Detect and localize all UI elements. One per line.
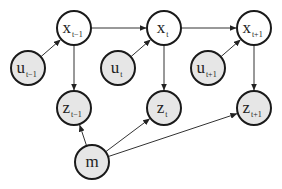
edge-u_t-to-x_t: [131, 40, 151, 57]
node-u_t: ut: [101, 51, 135, 85]
node-label-base: u: [111, 58, 120, 77]
node-label-base: u: [196, 58, 205, 77]
node-label-base: m: [85, 152, 98, 171]
edge-m-to-z_tm1: [80, 125, 87, 146]
node-label-base: z: [242, 98, 250, 117]
edge-u_tp1-to-x_tp1: [221, 40, 241, 57]
node-z_tp1: zt+1: [237, 91, 271, 125]
node-x_tm1: xt−1: [57, 11, 91, 45]
node-label: m: [85, 152, 98, 171]
node-label-subscript: t+1: [206, 70, 217, 79]
node-m: m: [75, 145, 109, 179]
node-label-base: z: [157, 98, 165, 117]
node-label-base: x: [157, 18, 166, 37]
node-label-base: z: [62, 98, 70, 117]
node-label-subscript: t−1: [26, 70, 37, 79]
edge-u_tm1-to-x_tm1: [41, 40, 61, 57]
node-z_t: zt: [147, 91, 181, 125]
node-label-base: x: [242, 18, 251, 37]
node-label-subscript: t−1: [71, 110, 82, 119]
node-x_t: xt: [147, 11, 181, 45]
node-x_tp1: xt+1: [237, 11, 271, 45]
nodes-layer: xt−1xtxt+1ut−1utut+1zt−1ztzt+1m: [11, 11, 271, 179]
node-label-subscript: t+1: [252, 30, 263, 39]
edge-m-to-z_t: [106, 119, 150, 152]
node-label-base: u: [16, 58, 25, 77]
node-z_tm1: zt−1: [57, 91, 91, 125]
node-label-subscript: t−1: [72, 30, 83, 39]
node-u_tm1: ut−1: [11, 51, 45, 85]
bayesian-network-diagram: xt−1xtxt+1ut−1utut+1zt−1ztzt+1m: [0, 0, 282, 189]
node-label-subscript: t+1: [251, 110, 262, 119]
node-label-base: x: [62, 18, 71, 37]
node-u_tp1: ut+1: [191, 51, 225, 85]
